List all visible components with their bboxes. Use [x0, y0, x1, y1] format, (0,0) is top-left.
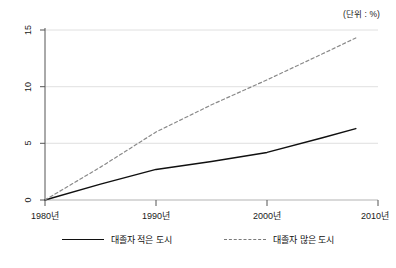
x-tick-label-2010: 2010년	[361, 209, 389, 222]
x-tick-label-2000: 2000년	[253, 209, 281, 222]
x-tick-marks	[45, 200, 378, 206]
chart-legend: 대졸자 적은 도시 대졸자 많은 도시	[0, 233, 396, 246]
legend-item-dashed: 대졸자 많은 도시	[224, 233, 334, 246]
y-tick-marks	[40, 30, 45, 200]
line-chart-figure: (단위 : %) 15 10 5 0	[0, 0, 396, 268]
legend-swatch-dashed-line-icon	[224, 239, 266, 240]
series-line-dashed	[45, 38, 356, 200]
gridlines	[45, 30, 378, 143]
y-tick-label-15: 15	[23, 22, 33, 38]
legend-swatch-solid-line-icon	[62, 239, 104, 240]
legend-label-solid: 대졸자 적은 도시	[111, 233, 172, 246]
legend-label-dashed: 대졸자 많은 도시	[273, 233, 334, 246]
x-tick-label-1980: 1980년	[31, 209, 59, 222]
series-line-solid	[45, 129, 356, 200]
plot-area	[0, 0, 396, 268]
y-tick-label-10: 10	[23, 79, 33, 95]
y-tick-label-0: 0	[23, 192, 33, 208]
legend-item-solid: 대졸자 적은 도시	[62, 233, 172, 246]
y-tick-label-5: 5	[23, 135, 33, 151]
x-tick-label-1990: 1990년	[142, 209, 170, 222]
